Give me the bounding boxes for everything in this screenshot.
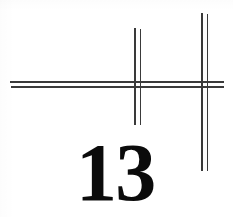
vertical-rule-inner-left: [134, 28, 136, 125]
horizontal-rule-upper: [10, 81, 224, 83]
horizontal-rule-lower: [11, 86, 224, 88]
vertical-rule-outer-left: [201, 13, 203, 171]
vertical-rule-outer-right: [207, 14, 208, 171]
figure-number: 13: [76, 132, 155, 214]
vertical-rule-inner-right: [140, 29, 141, 125]
scanned-page: 13: [0, 0, 233, 217]
